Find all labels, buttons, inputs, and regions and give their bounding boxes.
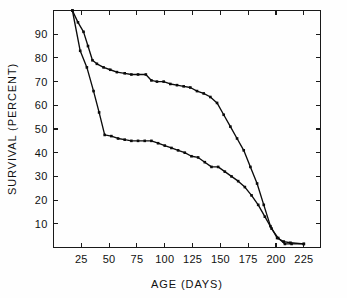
upper-survival-curve-point xyxy=(102,66,105,69)
lower-survival-curve-point xyxy=(230,175,233,178)
upper-survival-curve-point xyxy=(87,45,90,48)
lower-survival-curve-point xyxy=(210,166,213,169)
lower-survival-curve-point xyxy=(79,49,82,52)
upper-survival-curve-point xyxy=(91,59,94,62)
lower-survival-curve xyxy=(71,9,305,245)
upper-survival-curve-point xyxy=(96,63,99,66)
upper-survival-curve-point xyxy=(82,31,85,34)
upper-survival-curve-point xyxy=(229,125,232,128)
y-tick-label-70: 70 xyxy=(35,76,48,88)
lower-survival-curve-point xyxy=(224,170,227,173)
survival-chart-figure: 255075100125150175200225 102030405060708… xyxy=(0,0,347,298)
upper-survival-curve-point xyxy=(150,79,153,82)
x-tick-label-200: 200 xyxy=(267,253,286,265)
lower-survival-curve-point xyxy=(110,135,113,138)
lower-survival-curve-point xyxy=(150,140,153,143)
x-tick-label-175: 175 xyxy=(239,253,258,265)
upper-survival-curve-point xyxy=(242,149,245,152)
x-tick-label-150: 150 xyxy=(211,253,230,265)
upper-survival-curve-point xyxy=(176,84,179,87)
data-series-layer xyxy=(71,9,305,245)
upper-survival-curve-point xyxy=(169,83,172,86)
upper-survival-curve-point xyxy=(249,166,252,169)
y-tick-label-80: 80 xyxy=(35,52,48,64)
lower-survival-curve-point xyxy=(290,243,293,246)
upper-survival-curve-point xyxy=(202,92,205,95)
lower-survival-curve-point xyxy=(163,144,166,147)
upper-survival-curve-point xyxy=(189,86,192,89)
x-tick-label-50: 50 xyxy=(103,253,116,265)
lower-survival-curve-point xyxy=(217,166,220,169)
upper-survival-curve-point xyxy=(196,90,199,93)
y-axis-tick-marks xyxy=(54,34,321,224)
lower-survival-curve-point xyxy=(117,137,120,140)
upper-survival-curve-point xyxy=(137,73,140,76)
y-tick-label-10: 10 xyxy=(35,218,48,230)
upper-survival-curve-line xyxy=(72,11,303,244)
x-tick-label-225: 225 xyxy=(294,253,313,265)
lower-survival-curve-point xyxy=(98,111,101,114)
upper-survival-curve xyxy=(71,9,305,245)
upper-survival-curve-point xyxy=(262,204,265,207)
lower-survival-curve-point xyxy=(277,237,280,240)
lower-survival-curve-point xyxy=(197,156,200,159)
lower-survival-curve-point xyxy=(130,140,133,143)
plot-frame xyxy=(54,11,321,248)
lower-survival-curve-point xyxy=(284,243,287,246)
upper-survival-curve-point xyxy=(116,71,119,74)
y-tick-label-40: 40 xyxy=(35,147,48,159)
y-tick-label-20: 20 xyxy=(35,194,48,206)
lower-survival-curve-point xyxy=(303,243,306,246)
lower-survival-curve-point xyxy=(190,155,193,158)
upper-survival-curve-point xyxy=(130,73,133,76)
x-axis-tick-marks xyxy=(81,11,304,248)
x-tick-label-25: 25 xyxy=(75,253,88,265)
upper-survival-curve-point xyxy=(236,137,239,140)
lower-survival-curve-point xyxy=(137,140,140,143)
lower-survival-curve-point xyxy=(71,9,74,12)
lower-survival-curve-point xyxy=(86,66,89,69)
lower-survival-curve-point xyxy=(170,147,173,150)
upper-survival-curve-point xyxy=(123,72,126,75)
x-axis-tick-labels: 255075100125150175200225 xyxy=(75,253,313,265)
y-tick-label-30: 30 xyxy=(35,170,48,182)
y-axis-tick-labels: 102030405060708090 xyxy=(35,28,48,230)
lower-survival-curve-point xyxy=(204,161,207,164)
upper-survival-curve-point xyxy=(77,21,80,24)
x-tick-label-125: 125 xyxy=(183,253,202,265)
x-tick-label-75: 75 xyxy=(131,253,144,265)
upper-survival-curve-point xyxy=(216,102,219,105)
lower-survival-curve-point xyxy=(177,149,180,152)
survival-chart-svg: 255075100125150175200225 102030405060708… xyxy=(0,0,347,298)
lower-survival-curve-point xyxy=(257,204,260,207)
upper-survival-curve-point xyxy=(209,96,212,99)
upper-survival-curve-point xyxy=(222,113,225,116)
axis-frame xyxy=(54,11,321,248)
lower-survival-curve-line xyxy=(72,11,303,244)
lower-survival-curve-point xyxy=(264,215,267,218)
lower-survival-curve-point xyxy=(183,151,186,154)
lower-survival-curve-point xyxy=(92,90,95,93)
upper-survival-curve-point xyxy=(156,80,159,83)
upper-survival-curve-point xyxy=(109,68,112,71)
lower-survival-curve-point xyxy=(244,186,247,189)
lower-survival-curve-point xyxy=(143,140,146,143)
upper-survival-curve-point xyxy=(145,73,148,76)
y-tick-label-50: 50 xyxy=(35,123,48,135)
lower-survival-curve-point xyxy=(250,194,253,197)
lower-survival-curve-point xyxy=(123,138,126,141)
y-tick-label-60: 60 xyxy=(35,99,48,111)
lower-survival-curve-point xyxy=(237,180,240,183)
upper-survival-curve-point xyxy=(182,85,185,88)
y-axis-title: SURVIVAL (PERCENT) xyxy=(6,63,18,195)
lower-survival-curve-point xyxy=(270,227,273,230)
x-axis-title: AGE (DAYS) xyxy=(151,278,223,290)
upper-survival-curve-point xyxy=(256,182,259,185)
y-tick-label-90: 90 xyxy=(35,28,48,40)
upper-survival-curve-point xyxy=(162,80,165,83)
lower-survival-curve-point xyxy=(103,134,106,137)
lower-survival-curve-point xyxy=(157,142,160,145)
x-tick-label-100: 100 xyxy=(155,253,174,265)
